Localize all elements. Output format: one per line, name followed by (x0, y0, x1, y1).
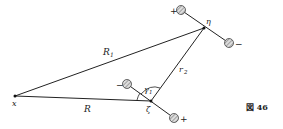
segment-R (15, 96, 151, 101)
figure-caption: 図 46 (246, 102, 268, 112)
charge-minus-eta (225, 39, 234, 48)
sign-minus-eta: − (235, 39, 243, 49)
charge-minus-zeta (123, 80, 132, 89)
point-x (14, 95, 17, 98)
segment-R1 (15, 28, 204, 96)
label-R: R (83, 104, 91, 114)
angle-theta-arc (137, 93, 140, 100)
label-x: x (12, 99, 17, 108)
sign-plus-zeta: + (180, 114, 188, 124)
sign-minus-zeta: − (116, 80, 124, 90)
label-zeta: ζ (146, 105, 151, 114)
label-gamma1: γ 1 (144, 85, 153, 95)
label-eta: η (206, 17, 211, 26)
charge-plus-zeta (170, 114, 179, 123)
label-r2: r 2 (179, 65, 188, 75)
svg-text:2: 2 (183, 69, 188, 75)
segment-r2 (151, 28, 204, 101)
svg-text:1: 1 (110, 51, 114, 58)
dipole-eta-axis (181, 10, 229, 43)
charge-plus-eta (177, 6, 186, 15)
svg-text:1: 1 (149, 89, 153, 95)
point-zeta (150, 100, 153, 103)
sign-plus-eta: + (170, 6, 178, 16)
label-R1: R 1 (102, 47, 114, 58)
point-eta (203, 27, 206, 30)
svg-text:R: R (102, 47, 110, 57)
dipole-diagram: x η ζ R 1 R r 2 γ 1 + − − + 図 46 (0, 0, 283, 129)
